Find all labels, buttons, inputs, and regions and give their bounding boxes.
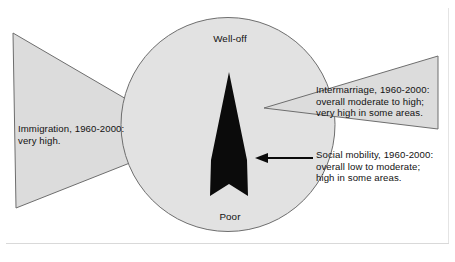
circle-bottom-label: Poor <box>200 211 260 223</box>
circle-top-label: Well-off <box>200 33 260 45</box>
intermarriage-label: Intermarriage, 1960-2000: overall modera… <box>316 84 429 119</box>
diagram-figure: Well-off Poor Immigration, 1960-2000: ve… <box>0 0 455 262</box>
social-mobility-label: Social mobility, 1960-2000: overall low … <box>316 149 433 184</box>
immigration-label: Immigration, 1960-2000: very high. <box>18 123 124 146</box>
